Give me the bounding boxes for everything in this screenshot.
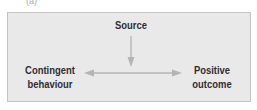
down-arrow-icon — [128, 36, 135, 67]
arrows — [0, 0, 257, 110]
double-headed-arrow-icon — [84, 70, 182, 77]
